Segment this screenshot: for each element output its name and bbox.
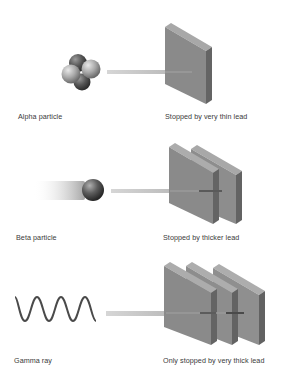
alpha-beam (107, 70, 165, 74)
alpha-row (62, 23, 213, 104)
alpha-particle-label: Alpha particle (18, 112, 62, 121)
beta-trail (33, 181, 85, 200)
beta-row (33, 143, 242, 224)
lead-sheet-thin (165, 23, 212, 104)
gamma-shield-label: Only stopped by very thick lead (163, 356, 264, 365)
helium-nucleus-icon (62, 54, 101, 91)
beta-beam (111, 189, 170, 193)
gamma-beam (106, 311, 166, 316)
radiation-penetration-diagram (0, 0, 282, 381)
wave-icon (15, 297, 96, 321)
alpha-shield-label: Stopped by very thin lead (165, 112, 247, 121)
gamma-particle-label: Gamma ray (14, 356, 52, 365)
beta-shield-label: Stopped by thicker lead (163, 233, 239, 242)
electron-ball-icon (82, 179, 104, 201)
gamma-row (15, 262, 265, 345)
beta-particle-label: Beta particle (16, 233, 57, 242)
